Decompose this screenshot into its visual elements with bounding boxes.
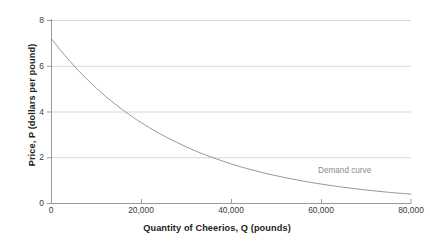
demand-curve-annotation: Demand curve (318, 166, 371, 175)
x-tick-label-20000: 20,000 (106, 206, 176, 214)
x-tick-label-0: 0 (16, 206, 86, 214)
y-axis-ticks (47, 21, 52, 204)
x-tick-label-60000: 60,000 (286, 206, 356, 214)
demand-curve-chart: 8 6 4 2 0 0 20,000 40,000 60,000 80,000 … (0, 0, 430, 252)
x-axis-title: Quantity of Cheerios, Q (pounds) (51, 223, 383, 233)
x-tick-label-80000: 80,000 (376, 206, 430, 214)
x-tick-label-40000: 40,000 (196, 206, 266, 214)
gridlines-horizontal (51, 21, 411, 158)
x-axis-ticks (52, 199, 412, 204)
y-axis-title: Price, P (dollars per pound) (27, 15, 37, 195)
